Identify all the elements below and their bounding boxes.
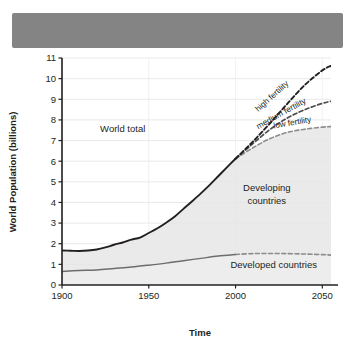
- annotation-label: countries: [248, 195, 287, 206]
- x-tick-label: 1900: [51, 290, 72, 301]
- annotation-label: Developed countries: [230, 259, 317, 270]
- y-tick-label: 4: [51, 197, 56, 208]
- y-tick-label: 8: [51, 114, 56, 125]
- chart-svg: 01234567891011 1900195020002050 World Po…: [0, 48, 351, 344]
- y-tick-label: 10: [45, 73, 56, 84]
- y-tick-label: 0: [51, 279, 56, 290]
- figure-container: 01234567891011 1900195020002050 World Po…: [0, 0, 351, 344]
- y-tick-label: 7: [51, 135, 56, 146]
- annotation-label: World total: [100, 123, 145, 134]
- x-tick-label: 2050: [312, 290, 333, 301]
- y-tick-label: 6: [51, 156, 56, 167]
- x-tick-label: 2000: [225, 290, 246, 301]
- annotation-label: Developing: [243, 182, 291, 193]
- x-tick-label: 1950: [138, 290, 159, 301]
- y-tick-label: 11: [46, 52, 56, 63]
- y-axis-tick-labels: 01234567891011: [45, 52, 56, 290]
- y-tick-label: 5: [51, 176, 56, 187]
- y-tick-label: 1: [51, 259, 56, 270]
- x-axis-title: Time: [189, 327, 211, 338]
- x-axis-tick-labels: 1900195020002050: [51, 290, 332, 301]
- y-axis-title: World Population (billions): [7, 112, 18, 233]
- y-tick-label: 3: [51, 217, 56, 228]
- redacted-title-bar: [12, 13, 343, 48]
- y-tick-label: 9: [51, 94, 56, 105]
- y-tick-label: 2: [51, 238, 56, 249]
- population-chart: 01234567891011 1900195020002050 World Po…: [0, 48, 351, 344]
